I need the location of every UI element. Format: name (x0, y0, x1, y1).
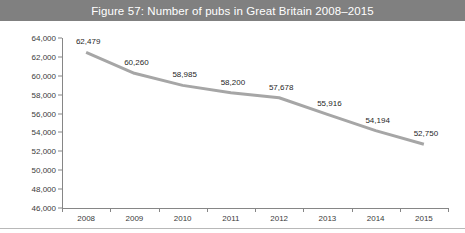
y-axis-tick-mark (58, 170, 62, 171)
x-axis-tick-mark (62, 208, 63, 212)
y-axis-tick-mark (58, 132, 62, 133)
data-point-label: 58,200 (221, 78, 245, 87)
y-axis-tick-label: 48,000 (32, 185, 56, 194)
y-axis-tick-label: 62,000 (32, 52, 56, 61)
y-axis-tick-label: 56,000 (32, 109, 56, 118)
y-axis-tick-mark (58, 56, 62, 57)
x-axis-tick-mark (303, 208, 304, 212)
x-axis-tick-label: 2013 (318, 214, 336, 223)
x-axis-tick-mark (159, 208, 160, 212)
x-axis-tick-mark (352, 208, 353, 212)
x-axis-tick-mark (255, 208, 256, 212)
y-axis-tick-mark (58, 151, 62, 152)
x-axis-tick-label: 2012 (270, 214, 288, 223)
x-axis-tick-mark (400, 208, 401, 212)
y-axis-tick-label: 50,000 (32, 166, 56, 175)
bottom-divider (0, 228, 465, 229)
x-axis-tick-mark (110, 208, 111, 212)
y-axis-tick-mark (58, 113, 62, 114)
x-axis-tick-label: 2010 (174, 214, 192, 223)
y-axis-tick-label: 60,000 (32, 71, 56, 80)
data-point-label: 52,750 (414, 129, 438, 138)
x-axis-tick-label: 2014 (367, 214, 385, 223)
y-axis-tick-label: 64,000 (32, 34, 56, 43)
x-axis-tick-mark (448, 208, 449, 212)
chart-series-layer (0, 0, 465, 233)
data-point-label: 54,194 (365, 116, 389, 125)
data-point-label: 57,678 (269, 83, 293, 92)
data-point-label: 62,479 (76, 37, 100, 46)
figure-container: Figure 57: Number of pubs in Great Brita… (0, 0, 465, 233)
data-point-label: 60,260 (124, 58, 148, 67)
y-axis-tick-mark (58, 75, 62, 76)
y-axis-tick-label: 52,000 (32, 147, 56, 156)
x-axis-tick-mark (207, 208, 208, 212)
figure-title-banner: Figure 57: Number of pubs in Great Brita… (0, 0, 465, 21)
data-point-label: 58,985 (172, 70, 196, 79)
y-axis-tick-mark (58, 38, 62, 39)
y-axis-tick-mark (58, 94, 62, 95)
x-axis-tick-label: 2015 (415, 214, 433, 223)
x-axis-tick-label: 2009 (125, 214, 143, 223)
y-axis-tick-label: 58,000 (32, 90, 56, 99)
x-axis-tick-label: 2011 (222, 214, 239, 223)
y-axis-tick-label: 54,000 (32, 128, 56, 137)
y-axis-tick-mark (58, 189, 62, 190)
y-axis-line (62, 38, 63, 209)
y-axis-tick-label: 46,000 (32, 204, 56, 213)
data-point-label: 55,916 (317, 99, 341, 108)
page-title: Figure 57: Number of pubs in Great Brita… (91, 5, 374, 17)
x-axis-tick-label: 2008 (77, 214, 95, 223)
